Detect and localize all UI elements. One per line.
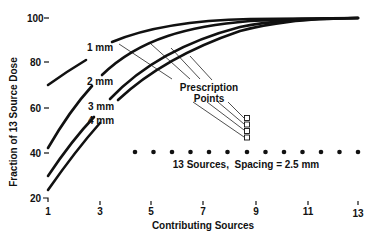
x-axis-label: Contributing Sources <box>152 220 255 231</box>
curve-label-3mm: 3 mm <box>88 101 114 112</box>
y-axis-label: Fraction of 13 Source Dose <box>8 57 19 187</box>
y-tick-label: 40 <box>30 148 42 159</box>
x-tick-label: 3 <box>97 206 103 217</box>
y-tick-label: 80 <box>30 57 42 68</box>
x-tick-label: 9 <box>253 206 259 217</box>
x-tick-label: 13 <box>352 208 364 219</box>
curve-label-1mm: 1 mm <box>87 42 113 53</box>
sources-label: 13 Sources, Spacing = 2.5 mm <box>173 159 320 170</box>
dose-fraction-chart: 100 80 60 40 20 Fraction of 13 Source Do… <box>0 0 374 242</box>
x-tick-label: 7 <box>200 206 206 217</box>
source-dots <box>133 150 361 155</box>
x-axis: 1 3 5 7 9 11 13 Contributing Sources <box>45 201 364 231</box>
y-axis: 100 80 60 40 20 Fraction of 13 Source Do… <box>8 13 49 204</box>
curve-label-4mm: 4 mm <box>88 115 114 126</box>
x-tick-label: 11 <box>303 206 314 217</box>
x-tick-label: 1 <box>45 206 51 217</box>
prescription-points-label-line2: Points <box>194 93 225 104</box>
y-tick-label: 100 <box>27 13 44 24</box>
prescription-points-label: Prescription <box>180 82 238 93</box>
prescription-point-squares <box>245 116 250 141</box>
y-tick-label: 20 <box>30 193 42 204</box>
y-tick-label: 60 <box>30 103 42 114</box>
curve-label-2mm: 2 mm <box>87 76 113 87</box>
x-tick-label: 5 <box>148 206 154 217</box>
